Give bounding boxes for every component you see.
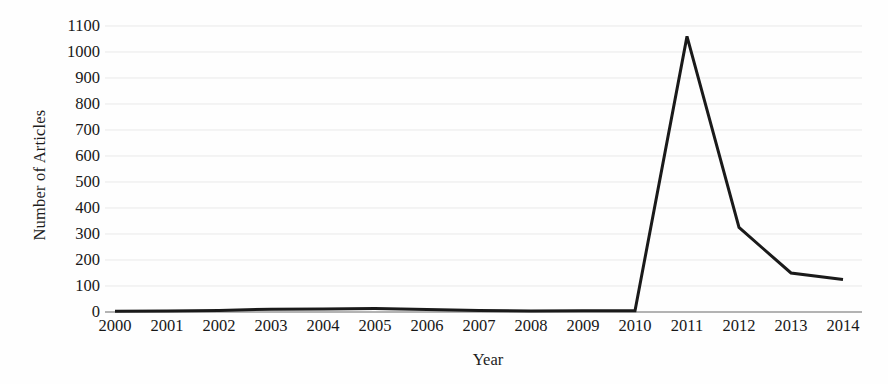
x-axis-tick-label: 2003 [245,316,297,336]
x-axis-tick-label: 2010 [609,316,661,336]
x-axis-tick-label: 2000 [89,316,141,336]
x-axis-tick-label: 2005 [349,316,401,336]
plot-area [105,18,862,314]
y-axis-tick-label: 700 [40,122,100,138]
y-axis-tick-label: 400 [40,200,100,216]
y-axis-tick-label: 900 [40,70,100,86]
y-axis-tick-label: 100 [40,278,100,294]
chart-figure: Number of Articles 110010009008007006005… [0,0,888,384]
x-axis-tick-labels: 2000200120022003200420052006200720082009… [105,316,862,340]
y-axis-tick-label: 800 [40,96,100,112]
gridlines-group [105,26,862,286]
x-axis-tick-label: 2007 [453,316,505,336]
line-chart-svg [105,18,862,314]
y-axis-tick-label: 1000 [40,44,100,60]
x-axis-tick-label: 2014 [817,316,869,336]
x-axis-tick-label: 2008 [505,316,557,336]
x-axis-tick-label: 2009 [557,316,609,336]
y-axis-tick-label: 200 [40,252,100,268]
x-axis-tick-label: 2012 [713,316,765,336]
y-axis-tick-label: 500 [40,174,100,190]
x-axis-tick-label: 2011 [661,316,713,336]
x-axis-title: Year [0,350,888,370]
x-axis-tick-label: 2013 [765,316,817,336]
x-axis-tick-label: 2004 [297,316,349,336]
x-axis-tick-label: 2001 [141,316,193,336]
x-axis-tick-label: 2006 [401,316,453,336]
y-axis-tick-label: 600 [40,148,100,164]
y-axis-tick-label: 300 [40,226,100,242]
x-axis-tick-label: 2002 [193,316,245,336]
y-axis-tick-label: 1100 [40,18,100,34]
